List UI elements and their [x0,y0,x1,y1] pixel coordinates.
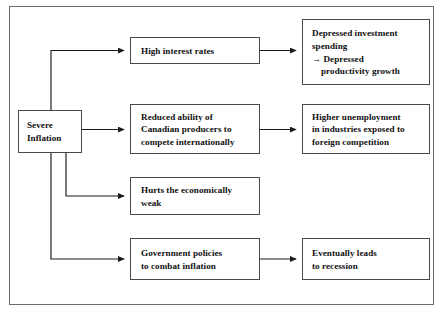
node-eventually-recession: Eventually leads to recession [302,238,430,280]
flowchart-diagram: Severe Inflation High interest rates Red… [0,0,444,317]
node-higher-unemployment: Higher unemployment in industries expose… [302,104,430,154]
node-eventually-recession-line-1: Eventually leads [312,247,423,260]
node-high-interest-rates: High interest rates [130,37,260,64]
node-hurts-economically-weak-line-1: Hurts the economically [141,184,253,197]
node-reduced-ability: Reduced ability of Canadian producers to… [130,104,260,154]
node-reduced-ability-line-2: Canadian producers to [141,123,253,136]
node-depressed-investment: Depressed investment spending → Depresse… [302,19,430,85]
node-reduced-ability-line-3: compete internationally [141,136,253,149]
edge-inflation-to-high-interest [51,51,124,111]
node-higher-unemployment-line-2: in industries exposed to [312,123,423,136]
node-depressed-investment-line-2: spending [312,40,423,53]
edge-inflation-to-hurts-weak [66,153,124,196]
edge-inflation-to-gov-policies [51,153,124,259]
node-reduced-ability-line-1: Reduced ability of [141,111,253,124]
node-higher-unemployment-line-3: foreign competition [312,136,423,149]
node-depressed-investment-line-4: productivity growth [312,65,423,78]
node-government-policies-line-1: Government policies [141,247,253,260]
node-depressed-investment-line-1: Depressed investment [312,27,423,40]
node-higher-unemployment-line-1: Higher unemployment [312,111,423,124]
node-hurts-economically-weak: Hurts the economically weak [130,177,260,215]
node-hurts-economically-weak-line-2: weak [141,197,253,210]
node-depressed-investment-line-3: → Depressed [312,53,423,66]
node-severe-inflation: Severe Inflation [18,110,82,153]
node-severe-inflation-line-1: Severe [27,119,75,132]
node-government-policies: Government policies to combat inflation [130,238,260,280]
node-severe-inflation-line-2: Inflation [27,132,75,145]
node-government-policies-line-2: to combat inflation [141,260,253,273]
node-eventually-recession-line-2: to recession [312,260,423,273]
node-high-interest-rates-line-1: High interest rates [141,45,253,58]
